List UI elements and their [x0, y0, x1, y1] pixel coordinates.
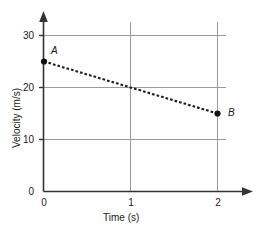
data-point-b	[214, 110, 220, 116]
point-label-b: B	[228, 108, 235, 118]
data-point-a	[41, 58, 47, 64]
y-axis-title: Velocity (m/s)	[12, 88, 22, 148]
x-axis-arrowhead-icon	[242, 187, 253, 196]
x-tick-label-2: 2	[208, 198, 228, 208]
x-tick-label-1: 1	[121, 198, 141, 208]
y-tick-label-0: 0	[12, 187, 34, 197]
x-tick-label-0: 0	[34, 198, 54, 208]
y-axis-arrowhead-icon	[39, 11, 48, 22]
x-axis-title: Time (s)	[103, 213, 139, 223]
y-tick-label-30: 30	[12, 31, 34, 41]
point-label-a: A	[51, 46, 58, 56]
velocity-time-chart: 30 20 10 0 0 1 2 Velocity (m/s) Time (s)…	[0, 0, 263, 231]
